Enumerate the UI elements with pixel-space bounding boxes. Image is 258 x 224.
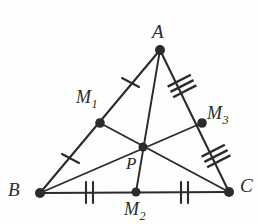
label-midpoint-m2: M2 (124, 200, 146, 222)
label-midpoint-m1: M1 (76, 88, 98, 110)
tick-stroke (168, 75, 191, 87)
point-C (224, 187, 234, 197)
median-C-M1 (100, 123, 229, 192)
tick-stroke (207, 155, 230, 167)
label-midpoint-m3: M3 (207, 104, 229, 126)
point-M1 (95, 118, 105, 128)
label-m2-base: M (124, 199, 139, 219)
geometry-figure: A B C P M1 M2 M3 (0, 0, 258, 224)
median-A-M2 (136, 50, 160, 192)
point-M3 (197, 118, 207, 128)
point-A (155, 45, 165, 55)
label-vertex-c: C (240, 176, 253, 195)
tick-stroke (202, 145, 225, 157)
tick-stroke (170, 80, 193, 92)
point-M2 (132, 188, 141, 197)
point-P (139, 143, 148, 152)
point-B (35, 188, 45, 198)
label-m3-base: M (207, 103, 222, 123)
label-m2-subscript: 2 (140, 209, 146, 223)
tick-M3-C (202, 145, 231, 167)
points (35, 45, 234, 198)
tick-stroke (173, 85, 196, 97)
tick-stroke (204, 150, 227, 162)
tick-A-M3 (168, 75, 197, 97)
label-m1-subscript: 1 (92, 97, 98, 111)
label-centroid-p: P (126, 155, 136, 172)
label-m3-subscript: 3 (223, 113, 229, 127)
label-vertex-b: B (8, 180, 20, 199)
label-m1-base: M (76, 87, 91, 107)
label-vertex-a: A (152, 22, 164, 41)
